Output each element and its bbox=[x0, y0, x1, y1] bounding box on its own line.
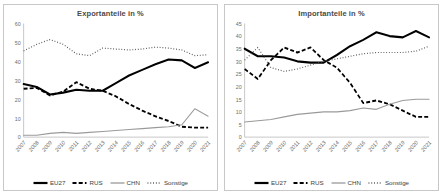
x-tick-label: 2014 bbox=[328, 139, 340, 153]
x-tick-label: 2013 bbox=[94, 139, 106, 153]
import-plot-svg: 0510152025303540452007200820092010201120… bbox=[225, 19, 435, 175]
legend-label-sonstige: Sonstige bbox=[164, 179, 188, 186]
import-chart-panel: Importanteile in % 051015202530354045200… bbox=[224, 4, 439, 191]
import-plot-area: 0510152025303540452007200820092010201120… bbox=[225, 19, 435, 175]
x-tick-label: 2012 bbox=[80, 139, 92, 153]
x-tick-label: 2015 bbox=[120, 139, 132, 153]
legend-label-eu27: EU27 bbox=[271, 179, 286, 186]
legend-swatch-sonstige bbox=[147, 180, 162, 186]
y-tick-label: 40 bbox=[15, 58, 21, 64]
y-tick-label: 60 bbox=[15, 20, 21, 26]
x-tick-label: 2018 bbox=[380, 139, 392, 153]
y-tick-label: 0 bbox=[18, 134, 21, 140]
import-chart-title: Importanteile in % bbox=[225, 5, 438, 19]
y-tick-label: 25 bbox=[236, 71, 242, 77]
legend-label-rus: RUS bbox=[89, 179, 102, 186]
series-line-eu27 bbox=[24, 59, 208, 94]
x-tick-label: 2020 bbox=[407, 139, 419, 153]
legend-label-eu27: EU27 bbox=[50, 179, 65, 186]
legend-label-rus: RUS bbox=[310, 179, 323, 186]
import-legend: EU27RUSCHNSonstige bbox=[225, 175, 438, 190]
legend-swatch-chn bbox=[110, 180, 125, 186]
x-tick-label: 2020 bbox=[186, 139, 198, 153]
legend-swatch-rus bbox=[72, 180, 87, 186]
legend-item-eu27[interactable]: EU27 bbox=[33, 179, 65, 186]
x-tick-label: 2014 bbox=[107, 139, 119, 153]
y-tick-label: 15 bbox=[236, 96, 242, 102]
legend-item-rus[interactable]: RUS bbox=[72, 179, 102, 186]
export-chart-panel: Exportanteile in % 010203040506020072008… bbox=[3, 4, 218, 191]
x-tick-label: 2019 bbox=[173, 139, 185, 153]
export-chart-title: Exportanteile in % bbox=[4, 5, 217, 19]
y-tick-label: 20 bbox=[15, 96, 21, 102]
legend-item-sonstige[interactable]: Sonstige bbox=[147, 179, 188, 186]
legend-item-sonstige[interactable]: Sonstige bbox=[368, 179, 409, 186]
legend-swatch-eu27 bbox=[254, 180, 269, 186]
series-line-rus bbox=[24, 82, 208, 127]
x-tick-label: 2013 bbox=[315, 139, 327, 153]
x-tick-label: 2021 bbox=[199, 139, 211, 153]
legend-swatch-rus bbox=[293, 180, 308, 186]
x-tick-label: 2008 bbox=[249, 139, 261, 153]
x-tick-label: 2011 bbox=[67, 139, 79, 152]
x-tick-label: 2010 bbox=[54, 139, 66, 153]
y-tick-label: 10 bbox=[236, 109, 242, 115]
x-tick-label: 2018 bbox=[159, 139, 171, 153]
series-line-chn bbox=[24, 109, 208, 136]
x-tick-label: 2016 bbox=[354, 139, 366, 153]
y-tick-label: 40 bbox=[236, 33, 242, 39]
y-tick-label: 30 bbox=[236, 58, 242, 64]
x-tick-label: 2012 bbox=[301, 139, 313, 153]
legend-swatch-chn bbox=[331, 180, 346, 186]
legend-label-chn: CHN bbox=[127, 179, 140, 186]
y-tick-label: 10 bbox=[15, 115, 21, 121]
export-plot-svg: 0102030405060200720082009201020112012201… bbox=[4, 19, 214, 175]
x-tick-label: 2015 bbox=[341, 139, 353, 153]
legend-item-rus[interactable]: RUS bbox=[293, 179, 323, 186]
legend-swatch-sonstige bbox=[368, 180, 383, 186]
x-tick-label: 2007 bbox=[236, 139, 248, 153]
legend-item-chn[interactable]: CHN bbox=[110, 179, 140, 186]
series-line-rus bbox=[245, 47, 429, 116]
legend-item-eu27[interactable]: EU27 bbox=[254, 179, 286, 186]
legend-label-chn: CHN bbox=[348, 179, 361, 186]
y-tick-label: 20 bbox=[236, 84, 242, 90]
legend-swatch-eu27 bbox=[33, 180, 48, 186]
y-tick-label: 30 bbox=[15, 77, 21, 83]
x-tick-label: 2017 bbox=[146, 139, 158, 153]
x-tick-label: 2019 bbox=[394, 139, 406, 153]
export-plot-area: 0102030405060200720082009201020112012201… bbox=[4, 19, 214, 175]
x-tick-label: 2008 bbox=[28, 139, 40, 153]
legend-item-chn[interactable]: CHN bbox=[331, 179, 361, 186]
y-tick-label: 0 bbox=[239, 134, 242, 140]
y-tick-label: 35 bbox=[236, 46, 242, 52]
x-tick-label: 2009 bbox=[262, 139, 274, 153]
x-tick-label: 2010 bbox=[275, 139, 287, 153]
x-tick-label: 2017 bbox=[367, 139, 379, 153]
export-legend: EU27RUSCHNSonstige bbox=[4, 175, 217, 190]
series-line-sonstige bbox=[24, 40, 208, 56]
y-tick-label: 50 bbox=[15, 39, 21, 45]
chart-pair-container: Exportanteile in % 010203040506020072008… bbox=[0, 0, 442, 194]
y-tick-label: 5 bbox=[239, 122, 242, 128]
x-tick-label: 2016 bbox=[133, 139, 145, 153]
x-tick-label: 2021 bbox=[420, 139, 432, 153]
x-tick-label: 2007 bbox=[15, 139, 27, 153]
legend-label-sonstige: Sonstige bbox=[385, 179, 409, 186]
y-tick-label: 45 bbox=[236, 20, 242, 26]
x-tick-label: 2011 bbox=[288, 139, 300, 152]
x-tick-label: 2009 bbox=[41, 139, 53, 153]
